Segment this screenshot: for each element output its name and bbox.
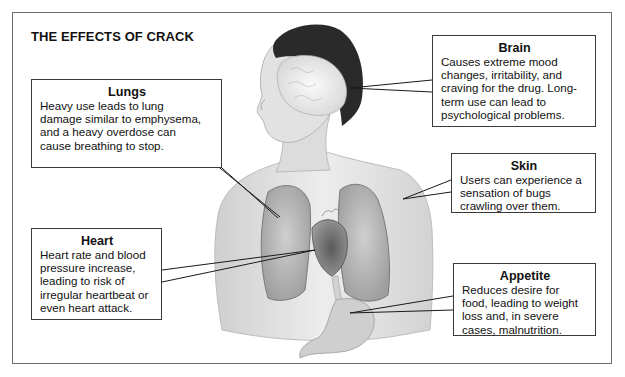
callout-heading: Lungs (40, 85, 214, 99)
callout-lungs: Lungs Heavy use leads to lung damage sim… (31, 79, 222, 168)
callout-line: pressure increase, (40, 261, 154, 274)
head (257, 25, 363, 143)
diagram-title: THE EFFECTS OF CRACK (31, 29, 194, 44)
callout-line: and a heavy overdose can (40, 125, 214, 138)
callout-heading: Skin (460, 159, 588, 173)
callout-line: cases, malnutrition. (462, 323, 588, 336)
callout-line: Users can experience a (460, 173, 588, 186)
callout-line: Heavy use leads to lung (40, 99, 214, 112)
callout-heading: Appetite (462, 269, 588, 283)
callout-line: food, leading to weight (462, 296, 588, 309)
callout-line: changes, irritability, and (441, 68, 588, 81)
callout-heading: Heart (40, 234, 154, 248)
callout-line: damage similar to emphysema, (40, 112, 214, 125)
left-lung (261, 186, 310, 301)
callout-appetite: Appetite Reduces desire for food, leadin… (453, 263, 596, 336)
callout-line: Causes extreme mood (441, 55, 588, 68)
callout-line: craving for the drug. Long- (441, 81, 588, 94)
callout-line: Heart rate and blood (40, 248, 154, 261)
callout-line: term use can lead to (441, 95, 588, 108)
callout-line: crawling over them. (460, 199, 588, 212)
callout-line: leading to risk of (40, 274, 154, 287)
callout-brain: Brain Causes extreme mood changes, irrit… (432, 35, 596, 127)
callout-skin: Skin Users can experience a sensation of… (451, 153, 596, 213)
callout-line: cause breathing to stop. (40, 139, 214, 152)
callout-heading: Brain (441, 41, 588, 55)
callout-line: sensation of bugs (460, 186, 588, 199)
callout-line: psychological problems. (441, 108, 588, 121)
callout-line: even heart attack. (40, 301, 154, 314)
callout-heart: Heart Heart rate and blood pressure incr… (31, 228, 162, 320)
callout-line: Reduces desire for (462, 283, 588, 296)
callout-line: loss and, in severe (462, 309, 588, 322)
callout-line: irregular heartbeat or (40, 288, 154, 301)
